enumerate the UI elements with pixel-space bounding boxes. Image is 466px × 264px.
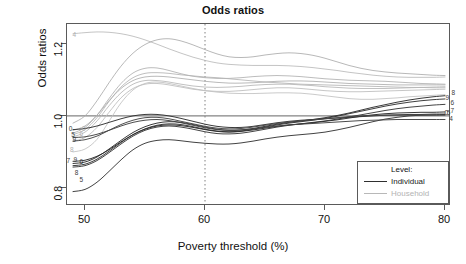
legend-title: Level: bbox=[391, 165, 412, 174]
curve-label-left-7: 7 bbox=[81, 136, 85, 143]
curve-label-right-4: 4 bbox=[449, 116, 453, 123]
x-tick-mark bbox=[204, 205, 205, 210]
curve-label-left-7: 7 bbox=[66, 158, 70, 165]
x-tick-label: 50 bbox=[64, 213, 104, 225]
x-tick-mark bbox=[84, 205, 85, 210]
curve-label-right-8: 8 bbox=[452, 90, 456, 97]
curve-label-left-6: 6 bbox=[80, 159, 84, 166]
y-tick-label: 0.8 bbox=[52, 186, 64, 208]
x-tick-label: 80 bbox=[424, 213, 464, 225]
curve-label-left-9: 9 bbox=[74, 157, 78, 164]
curve-label-left-9: 9 bbox=[72, 137, 76, 144]
curve-label-left-4: 4 bbox=[72, 32, 76, 39]
curve-hh-7 bbox=[73, 83, 445, 141]
curve-label-right-6: 6 bbox=[450, 100, 454, 107]
curve-label-right-7: 7 bbox=[450, 108, 454, 115]
y-tick-label: 1.2 bbox=[52, 42, 64, 64]
curve-hh-4 bbox=[73, 32, 445, 77]
x-tick-label: 60 bbox=[184, 213, 224, 225]
legend-label-household: Household bbox=[391, 189, 429, 198]
x-tick-label: 70 bbox=[304, 213, 344, 225]
legend-label-individual: Individual bbox=[391, 177, 425, 186]
legend-key-household bbox=[364, 193, 387, 194]
x-axis-label: Poverty threshold (%) bbox=[0, 240, 466, 252]
odds-ratios-chart: Odds ratios Odds ratios Poverty threshol… bbox=[0, 0, 466, 264]
x-tick-mark bbox=[324, 205, 325, 210]
curve-label-left-5: 5 bbox=[80, 177, 84, 184]
curve-label-left-8: 8 bbox=[70, 147, 74, 154]
chart-title: Odds ratios bbox=[0, 4, 466, 16]
curve-ind-9 bbox=[73, 99, 445, 166]
legend-key-individual bbox=[364, 181, 387, 182]
curve-label-left-8: 8 bbox=[75, 170, 79, 177]
curve-hh-0 bbox=[73, 76, 445, 130]
legend: Level: Individual Household bbox=[357, 161, 449, 204]
curve-label-right-9: 9 bbox=[446, 95, 450, 102]
x-tick-mark bbox=[444, 205, 445, 210]
y-tick-label: 1.0 bbox=[52, 114, 64, 136]
y-axis-label: Odds ratios bbox=[36, 0, 48, 118]
